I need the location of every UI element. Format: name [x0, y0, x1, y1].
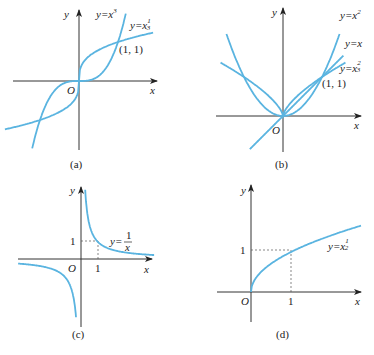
tick-y-1: 1 — [70, 235, 76, 247]
y-axis-label: y — [69, 184, 75, 196]
curve-label-x-cubed: y=x3 — [95, 7, 117, 20]
curve-label-reciprocal: y= — [109, 235, 122, 247]
power-function-figure: y x O (1, 1) y=x3 y=x13 (a) y x O (1, 1)… — [0, 0, 374, 355]
fraction-denominator: x — [124, 241, 130, 253]
curve-label-x-squared: y=x2 — [339, 8, 361, 21]
curve-square-root — [251, 226, 361, 292]
point-label: (1, 1) — [322, 77, 346, 90]
panel-c: y x O 1 1 y= 1 x (c) — [18, 184, 154, 341]
curve-identity — [250, 56, 344, 150]
fraction-numerator: 1 — [126, 229, 132, 241]
y-axis-label: y — [240, 184, 246, 196]
x-axis-label: x — [143, 263, 149, 275]
point-label: (1, 1) — [119, 43, 143, 56]
origin-label: O — [68, 262, 76, 274]
y-axis-label: y — [63, 8, 69, 20]
y-axis-label: y — [271, 6, 277, 18]
panel-d: y x O 1 1 y=x12 (d) — [217, 184, 361, 341]
caption-a: (a) — [70, 158, 83, 171]
origin-label: O — [272, 124, 280, 136]
curve-label-square-root: y=x12 — [327, 237, 349, 252]
x-axis-label: x — [353, 119, 359, 131]
origin-label: O — [241, 295, 249, 307]
tick-x-1: 1 — [288, 295, 294, 307]
tick-x-1: 1 — [95, 262, 101, 274]
curve-label-x-cube-root: y=x13 — [129, 17, 151, 32]
caption-c: (c) — [72, 328, 85, 341]
tick-y-1: 1 — [240, 244, 246, 256]
caption-d: (d) — [276, 328, 289, 341]
curve-label-x-two-thirds: y=x23 — [339, 59, 361, 74]
x-axis-label: x — [149, 84, 155, 96]
caption-b: (b) — [275, 158, 288, 171]
origin-label: O — [67, 84, 75, 96]
x-axis-label: x — [354, 295, 360, 307]
panel-a: y x O (1, 1) y=x3 y=x13 (a) — [5, 7, 157, 171]
curve-label-identity: y=x — [344, 37, 362, 49]
panel-b: y x O (1, 1) y=x2 y=x y=x23 (b) — [216, 6, 362, 171]
